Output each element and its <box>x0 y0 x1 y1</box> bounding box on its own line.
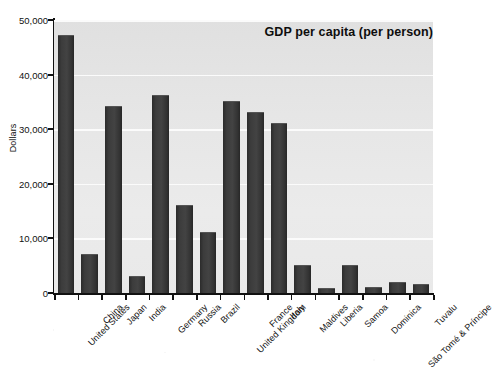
y-tick-label: 10,000 <box>2 233 48 244</box>
x-tick-mark <box>291 295 293 300</box>
bar <box>413 284 430 293</box>
bar <box>105 106 122 293</box>
x-tick-mark <box>101 295 103 300</box>
y-tick-label: 40,000 <box>2 69 48 80</box>
x-tick-mark <box>433 295 435 300</box>
bar-series <box>54 20 433 293</box>
x-tick-label: India <box>147 302 168 323</box>
bar <box>365 287 382 293</box>
x-tick-mark <box>149 295 151 300</box>
x-tick-mark <box>78 295 80 300</box>
x-tick-label: Tuvalu <box>433 302 459 328</box>
x-tick-mark <box>338 295 340 300</box>
bar <box>129 276 146 293</box>
x-tick-label: Dominica <box>389 302 423 336</box>
x-tick-label: Samoa <box>363 302 390 329</box>
x-tick-mark <box>267 295 269 300</box>
x-tick-mark <box>315 295 317 300</box>
bar <box>58 35 75 293</box>
plot-area <box>54 20 433 293</box>
bar <box>271 123 288 293</box>
bar <box>247 112 264 293</box>
y-tick-label: 50,000 <box>2 15 48 26</box>
bar <box>389 282 406 293</box>
bar <box>342 265 359 293</box>
y-axis-ticks: 010,00020,00030,00040,00050,000 <box>0 0 48 375</box>
x-tick-mark <box>386 295 388 300</box>
x-tick-mark <box>362 295 364 300</box>
bar <box>152 95 169 293</box>
x-tick-mark <box>220 295 222 300</box>
x-tick-mark <box>54 295 56 300</box>
x-tick-mark <box>409 295 411 300</box>
bar <box>200 232 217 293</box>
x-tick-label: São Tomé & Príncipe <box>426 302 493 369</box>
bar <box>223 101 240 293</box>
x-tick-mark <box>172 295 174 300</box>
y-tick-label: 20,000 <box>2 178 48 189</box>
x-tick-mark <box>196 295 198 300</box>
bar <box>176 205 193 293</box>
bar <box>81 254 98 293</box>
y-tick-label: 30,000 <box>2 124 48 135</box>
y-tick-label: 0 <box>2 288 48 299</box>
bar <box>294 265 311 293</box>
x-tick-label: Brazil <box>219 302 242 325</box>
bar <box>318 288 335 293</box>
x-tick-mark <box>125 295 127 300</box>
chart-title: GDP per capita (per person) <box>265 25 433 39</box>
x-tick-mark <box>244 295 246 300</box>
